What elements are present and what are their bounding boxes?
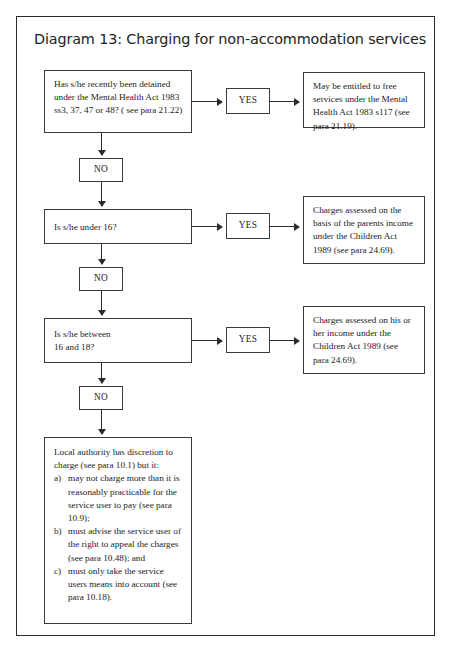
list-text-b: must advise the service user of the righ… — [68, 525, 184, 565]
final-intro-text: Local authority has discretion to charge… — [54, 446, 184, 472]
outcome-box-own-income: Charges assessed on his or her income un… — [303, 306, 425, 374]
outcome-box-local-authority-discretion: Local authority has discretion to charge… — [44, 437, 192, 624]
list-marker-a: a) — [54, 472, 68, 485]
no-box-1: NO — [79, 158, 123, 182]
arrowhead-yes2-to-outcome2 — [294, 223, 300, 231]
decision-2-text: Is s/he under 16? — [45, 210, 191, 240]
yes-box-3: YES — [226, 327, 270, 353]
outcome-3-text: Charges assessed on his or her income un… — [304, 307, 424, 373]
decision-box-under-16: Is s/he under 16? — [44, 209, 192, 244]
arrowhead-no1-to-d2 — [98, 201, 106, 207]
list-item: b) must advise the service user of the r… — [54, 525, 184, 565]
connector-yes2-to-outcome2 — [270, 226, 297, 227]
arrowhead-d1-to-yes1 — [217, 98, 223, 106]
arrowhead-yes3-to-outcome3 — [294, 337, 300, 345]
arrowhead-d3-to-no3 — [98, 378, 106, 384]
no-box-3: NO — [79, 386, 123, 410]
yes-label-1: YES — [239, 94, 258, 107]
list-marker-b: b) — [54, 525, 68, 538]
decision-1-text: Has s/he recently been detained under th… — [45, 71, 191, 124]
outcome-box-free-services: May be entitled to free services under t… — [303, 72, 425, 128]
no-label-2: NO — [94, 272, 108, 285]
decision-box-between-16-and-18: Is s/he between 16 and 18? — [44, 318, 192, 363]
connector-d2-to-yes2 — [192, 226, 220, 227]
decision-box-detained-mental-health: Has s/he recently been detained under th… — [44, 70, 192, 133]
decision-3-line-2: 16 and 18? — [54, 341, 183, 354]
connector-yes3-to-outcome3 — [270, 340, 297, 341]
no-label-1: NO — [94, 163, 108, 176]
arrowhead-d2-to-yes2 — [217, 223, 223, 231]
arrowhead-d3-to-yes3 — [217, 337, 223, 345]
list-item: c) must only take the service users mean… — [54, 565, 184, 605]
arrowhead-d1-to-no1 — [98, 150, 106, 156]
arrowhead-yes1-to-outcome1 — [294, 98, 300, 106]
arrowhead-no2-to-d3 — [98, 310, 106, 316]
decision-3-line-1: Is s/he between — [54, 328, 183, 341]
outcome-2-text: Charges assessed on the basis of the par… — [304, 197, 424, 263]
diagram-title: Diagram 13: Charging for non-accommodati… — [34, 31, 426, 47]
outcome-box-parents-income: Charges assessed on the basis of the par… — [303, 196, 425, 264]
no-box-2: NO — [79, 267, 123, 291]
outcome-1-text: May be entitled to free services under t… — [304, 73, 424, 139]
yes-box-1: YES — [226, 88, 270, 114]
connector-yes1-to-outcome1 — [270, 101, 297, 102]
arrowhead-no3-to-final — [98, 429, 106, 435]
list-text-c: must only take the service users means i… — [68, 565, 184, 605]
diagram-frame: Diagram 13: Charging for non-accommodati… — [16, 16, 435, 636]
yes-box-2: YES — [226, 213, 270, 239]
list-item: a) may not charge more than it is reason… — [54, 472, 184, 525]
no-label-3: NO — [94, 391, 108, 404]
yes-label-3: YES — [239, 333, 258, 346]
connector-d1-to-yes1 — [192, 101, 220, 102]
list-text-a: may not charge more than it is reasonabl… — [68, 472, 184, 525]
arrowhead-d2-to-no2 — [98, 259, 106, 265]
list-marker-c: c) — [54, 565, 68, 578]
connector-d3-to-yes3 — [192, 340, 220, 341]
yes-label-2: YES — [239, 219, 258, 232]
